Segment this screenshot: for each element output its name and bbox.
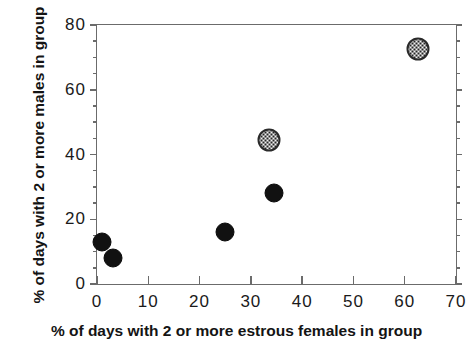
x-axis-tick [199, 276, 201, 284]
y-axis-tick-minor [93, 186, 97, 188]
y-axis-tick-minor [93, 202, 97, 204]
x-axis-tick-label: 20 [189, 292, 210, 312]
y-axis-title: % of days with 2 or more males in group [26, 0, 52, 310]
x-axis-tick [404, 276, 406, 284]
right-axis-tick-minor [456, 138, 460, 140]
data-point-filled [264, 184, 283, 203]
right-axis-tick-major [456, 89, 462, 91]
right-axis-tick-minor [456, 202, 460, 204]
right-axis-tick-minor [456, 40, 460, 42]
y-axis-tick-minor [93, 138, 97, 140]
x-axis-tick-label: 30 [240, 292, 261, 312]
data-point-filled [104, 249, 123, 268]
y-axis-tick-label: 60 [65, 80, 86, 100]
right-axis-tick-minor [456, 105, 460, 107]
right-axis-tick-minor [456, 73, 460, 75]
y-axis-tick-label: 40 [65, 145, 86, 165]
y-axis-tick-minor [93, 121, 97, 123]
y-axis-tick-minor [93, 73, 97, 75]
x-axis-tick-label: 10 [138, 292, 159, 312]
right-axis-tick-minor [456, 121, 460, 123]
right-axis-tick-major [456, 24, 462, 26]
y-axis-tick-minor [93, 267, 97, 269]
y-axis-tick-major [90, 154, 97, 156]
right-axis-tick-minor [456, 186, 460, 188]
plot-area: 020406080010203040506070 [96, 24, 457, 285]
right-axis-tick-major [456, 154, 462, 156]
x-axis-tick [455, 276, 457, 284]
right-axis-tick-minor [456, 235, 460, 237]
data-point-filled [216, 223, 235, 242]
x-axis-tick-label: 70 [446, 292, 467, 312]
right-axis-tick-minor [456, 170, 460, 172]
x-axis-tick-label: 50 [343, 292, 364, 312]
y-axis-tick-minor [93, 40, 97, 42]
y-axis-tick-minor [93, 170, 97, 172]
x-axis-tick [250, 276, 252, 284]
x-axis-title: % of days with 2 or more estrous females… [0, 322, 473, 340]
x-axis-tick [96, 276, 98, 284]
x-axis-tick [353, 276, 355, 284]
y-axis-tick-minor [93, 57, 97, 59]
right-axis-tick-major [456, 283, 462, 285]
x-axis-tick [301, 276, 303, 284]
x-axis-tick [148, 276, 150, 284]
y-axis-tick-label: 80 [65, 15, 86, 35]
right-axis-tick-minor [456, 251, 460, 253]
y-axis-tick-major [90, 24, 97, 26]
y-axis-tick-minor [93, 105, 97, 107]
data-point-stippled [406, 38, 429, 61]
x-axis-tick-label: 40 [292, 292, 313, 312]
x-axis-tick-label: 0 [92, 292, 102, 312]
x-axis-tick-label: 60 [394, 292, 415, 312]
y-axis-tick-major [90, 89, 97, 91]
y-axis-tick-minor [93, 251, 97, 253]
y-axis-tick-major [90, 219, 97, 221]
y-axis-tick-label: 20 [65, 209, 86, 229]
scatter-plot-figure: 020406080010203040506070 % of days with … [0, 0, 473, 354]
right-axis-tick-minor [456, 57, 460, 59]
y-axis-tick-label: 0 [76, 274, 86, 294]
right-axis-tick-minor [456, 267, 460, 269]
data-point-stippled [257, 128, 280, 151]
right-axis-tick-major [456, 219, 462, 221]
